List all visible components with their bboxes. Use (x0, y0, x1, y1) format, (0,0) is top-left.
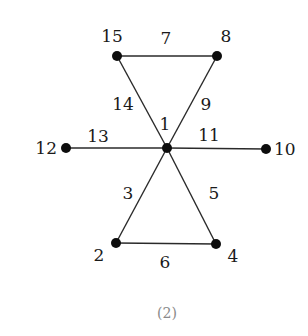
edge-label: 14 (112, 94, 134, 114)
node-2 (111, 238, 121, 248)
edge-label: 9 (201, 94, 212, 114)
node-12 (61, 143, 71, 153)
figure-caption: (2) (157, 305, 177, 321)
edge-6 (116, 243, 216, 244)
edge-label: 5 (209, 183, 220, 203)
node-label: 8 (221, 26, 232, 46)
node-15 (112, 51, 122, 61)
edge-label: 13 (87, 126, 109, 146)
graph-diagram: 714913113561248101215 (2) (0, 0, 308, 336)
edge-11 (167, 148, 266, 149)
edge-label: 7 (161, 28, 172, 48)
edge-label: 6 (160, 252, 171, 272)
node-label: 2 (94, 245, 105, 265)
node-label: 12 (35, 138, 57, 158)
node-label: 4 (228, 246, 239, 266)
node-4 (211, 239, 221, 249)
node-label: 1 (160, 114, 171, 134)
edge-label: 3 (123, 183, 134, 203)
nodes-layer (61, 51, 271, 249)
node-10 (261, 144, 271, 154)
node-label: 10 (274, 139, 296, 159)
node-label: 15 (101, 26, 123, 46)
node-1 (162, 143, 172, 153)
node-8 (212, 51, 222, 61)
edge-label: 11 (198, 125, 220, 145)
